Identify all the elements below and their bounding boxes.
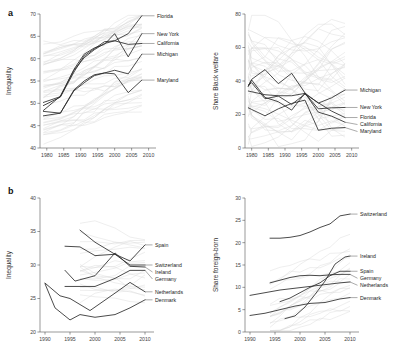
series-label-new-york: New York [157,31,179,37]
inequality-countries-chart: 202530354019901995200020052010Inequality… [0,180,208,362]
svg-text:50: 50 [30,100,36,106]
series-label-spain: Spain [155,242,168,248]
svg-text:2005: 2005 [319,336,331,342]
chart-panel-a-left: 4045505560657019801985199019952000200520… [0,0,208,180]
svg-text:20: 20 [30,329,36,335]
svg-text:2010: 2010 [344,336,356,342]
svg-text:0: 0 [238,145,241,151]
svg-text:Inequality: Inequality [5,66,13,95]
series-label-denmark: Denmark [155,297,176,303]
svg-text:20: 20 [235,240,241,246]
inequality-us-states-chart: 4045505560657019801985199019952000200520… [0,0,208,180]
svg-text:1990: 1990 [244,336,256,342]
svg-text:2000: 2000 [313,152,325,158]
svg-text:1980: 1980 [246,152,258,158]
svg-text:15: 15 [235,262,241,268]
svg-text:2005: 2005 [114,336,126,342]
svg-text:1995: 1995 [269,336,281,342]
svg-text:1995: 1995 [296,152,308,158]
svg-text:2010: 2010 [143,152,155,158]
series-label-denmark: Denmark [360,295,381,301]
series-label-ireland: Ireland [155,269,171,275]
svg-text:5: 5 [238,307,241,313]
svg-text:65: 65 [30,33,36,39]
series-label-florida: Florida [157,13,173,19]
svg-text:40: 40 [235,78,241,84]
svg-text:1990: 1990 [279,152,291,158]
svg-text:2010: 2010 [139,336,151,342]
series-label-california: California [360,121,382,127]
svg-text:Share foreign-born: Share foreign-born [212,238,220,293]
series-label-germany: Germany [155,276,177,282]
chart-panel-b-left: 202530354019901995200020052010Inequality… [0,180,208,362]
svg-text:35: 35 [30,228,36,234]
series-label-germany: Germany [360,275,382,281]
svg-text:40: 40 [30,145,36,151]
svg-text:1980: 1980 [41,152,53,158]
svg-text:45: 45 [30,123,36,129]
svg-text:20: 20 [235,111,241,117]
svg-text:1985: 1985 [263,152,275,158]
series-label-maryland: Maryland [360,128,381,134]
svg-text:1990: 1990 [75,152,87,158]
series-label-switzerland: Switzerland [155,262,182,268]
svg-text:1990: 1990 [39,336,51,342]
series-label-switzerland: Switzerland [360,211,387,217]
svg-text:1995: 1995 [64,336,76,342]
svg-text:Share Black welfare: Share Black welfare [212,52,219,110]
svg-text:25: 25 [30,295,36,301]
series-label-michigan: Michigan [157,51,178,57]
svg-text:2005: 2005 [126,152,138,158]
svg-text:10: 10 [235,284,241,290]
svg-text:70: 70 [30,11,36,17]
figure-container: a b 404550556065701980198519901995200020… [0,0,415,362]
series-label-maryland: Maryland [157,77,178,83]
series-label-california: California [157,40,179,46]
share-foreign-born-chart: 05101520253019901995200020052010Share fo… [207,180,415,362]
svg-text:60: 60 [235,44,241,50]
svg-text:25: 25 [235,217,241,223]
series-label-netherlands: Netherlands [155,289,183,295]
svg-text:2000: 2000 [109,152,121,158]
series-label-new-york: New York [360,104,382,110]
series-label-michigan: Michigan [360,87,381,93]
svg-text:2000: 2000 [294,336,306,342]
svg-text:Inequality: Inequality [5,250,13,279]
svg-text:60: 60 [30,56,36,62]
svg-text:0: 0 [238,329,241,335]
chart-panel-a-right: 0204060801980198519901995200020052010Sha… [207,0,415,180]
series-label-spain: Spain [360,268,373,274]
svg-text:2005: 2005 [329,152,341,158]
share-black-welfare-chart: 0204060801980198519901995200020052010Sha… [207,0,415,180]
svg-text:30: 30 [30,262,36,268]
series-label-florida: Florida [360,114,376,120]
series-label-ireland: Ireland [360,253,376,259]
svg-text:2010: 2010 [346,152,358,158]
svg-text:2000: 2000 [89,336,101,342]
svg-text:80: 80 [235,11,241,17]
svg-text:40: 40 [30,195,36,201]
svg-text:1985: 1985 [58,152,70,158]
svg-text:55: 55 [30,78,36,84]
chart-panel-b-right: 05101520253019901995200020052010Share fo… [207,180,415,362]
svg-text:30: 30 [235,195,241,201]
svg-text:1995: 1995 [92,152,104,158]
series-label-netherlands: Netherlands [360,282,388,288]
